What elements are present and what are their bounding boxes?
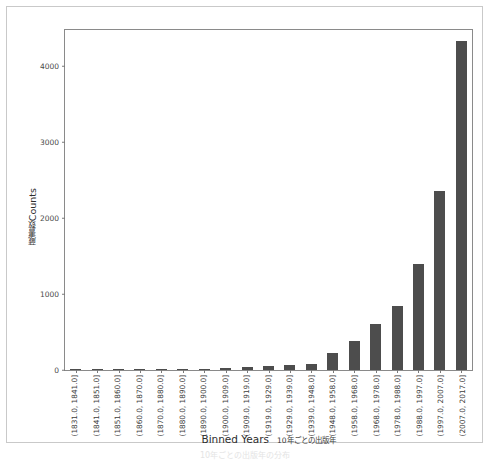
- x-axis-tick-label: (1997.0, 2007.0]: [437, 375, 444, 436]
- bar: [284, 365, 295, 370]
- bar: [113, 369, 124, 370]
- bar-slot: [429, 30, 450, 370]
- x-axis-tick-mark: [461, 370, 462, 373]
- bar-slot: [386, 30, 407, 370]
- x-axis-title-en: Binned Years: [201, 433, 269, 445]
- y-axis-tick-label: 1000: [40, 290, 65, 298]
- x-axis-tick-mark: [119, 370, 120, 373]
- bar-slot: [151, 30, 172, 370]
- bar-slot: [258, 30, 279, 370]
- bar: [456, 41, 467, 370]
- bar: [327, 353, 338, 370]
- x-axis-tick-label: (1968.0, 1978.0]: [373, 375, 380, 436]
- bar-slot: [279, 30, 300, 370]
- x-axis-tick-mark: [440, 370, 441, 373]
- y-axis-tick-label: 3000: [40, 138, 65, 146]
- y-axis-tick-label: 0: [54, 366, 65, 374]
- bar-slot: [451, 30, 472, 370]
- bar-series: [65, 30, 472, 370]
- bar-slot: [236, 30, 257, 370]
- x-axis-tick-mark: [97, 370, 98, 373]
- bar: [92, 369, 103, 370]
- bar-slot: [86, 30, 107, 370]
- y-axis-tick-label: 2000: [40, 214, 65, 222]
- x-axis-tick-mark: [376, 370, 377, 373]
- bar: [413, 264, 424, 370]
- y-axis-title: 蔵書数Counts: [24, 157, 40, 277]
- bar: [392, 306, 403, 370]
- bar-slot: [65, 30, 86, 370]
- bar: [177, 369, 188, 370]
- bar: [349, 341, 360, 370]
- bar-slot: [408, 30, 429, 370]
- x-axis-tick-mark: [247, 370, 248, 373]
- x-axis-tick-mark: [311, 370, 312, 373]
- bar-slot: [129, 30, 150, 370]
- bar-slot: [365, 30, 386, 370]
- x-axis-tick-label: (1870.0, 1880.0]: [157, 375, 164, 436]
- plot-area: 01000200030004000: [64, 29, 473, 371]
- x-axis-tick-mark: [161, 370, 162, 373]
- x-axis-tick-mark: [76, 370, 77, 373]
- bar-slot: [322, 30, 343, 370]
- x-axis-tick-mark: [354, 370, 355, 373]
- y-axis-title-jp: 蔵書数: [28, 222, 37, 246]
- x-axis-tick-mark: [290, 370, 291, 373]
- x-axis-tick-mark: [333, 370, 334, 373]
- x-axis-tick-label: (1958.0, 1968.0]: [351, 375, 358, 436]
- x-axis-tick-mark: [418, 370, 419, 373]
- x-axis-tick-label: (1939.0, 1948.0]: [308, 375, 315, 436]
- bar: [134, 369, 145, 370]
- figure-caption: 10年ごとの出版年の分布: [0, 449, 490, 462]
- bar: [434, 191, 445, 370]
- bar: [199, 369, 210, 370]
- bar-slot: [172, 30, 193, 370]
- bar-slot: [108, 30, 129, 370]
- y-axis-title-text: 蔵書数Counts: [27, 188, 38, 245]
- bar: [242, 367, 253, 370]
- y-axis-tick-label: 4000: [40, 62, 65, 70]
- x-axis-tick-label: (1880.0, 1890.0]: [179, 375, 186, 436]
- x-axis-tick-mark: [183, 370, 184, 373]
- x-axis-tick-label: (1919.0, 1929.0]: [265, 375, 272, 436]
- x-axis-tick-label: (1831.0, 1841.0]: [71, 375, 78, 436]
- x-axis-tick-label: (1841.0, 1851.0]: [93, 375, 100, 436]
- bar: [370, 324, 381, 370]
- x-axis-tick-label: (2007.0, 2017.0]: [459, 375, 466, 436]
- bar-slot: [215, 30, 236, 370]
- x-axis-tick-mark: [226, 370, 227, 373]
- x-axis-tick-mark: [397, 370, 398, 373]
- x-axis-tick-label: (1988.0, 1997.0]: [416, 375, 423, 436]
- bar: [306, 364, 317, 370]
- x-axis-tick-label: (1978.0, 1988.0]: [394, 375, 401, 436]
- x-axis-tick-label: (1860.0, 1870.0]: [136, 375, 143, 436]
- bar-slot: [301, 30, 322, 370]
- x-axis-title: Binned Years 10年ごとの出版年: [64, 433, 473, 445]
- x-axis-tick-label: (1909.0, 1919.0]: [243, 375, 250, 436]
- x-axis-tick-label: (1900.0, 1909.0]: [222, 375, 229, 436]
- bar: [156, 369, 167, 370]
- bar-slot: [343, 30, 364, 370]
- y-axis-title-en: Counts: [27, 188, 38, 221]
- x-axis-tick-label: (1929.0, 1939.0]: [286, 375, 293, 436]
- x-axis-tick-label: (1890.0, 1900.0]: [200, 375, 207, 436]
- x-axis-tick-mark: [269, 370, 270, 373]
- x-axis-tick-label: (1948.0, 1958.0]: [329, 375, 336, 436]
- bar-slot: [194, 30, 215, 370]
- figure-frame: 01000200030004000 蔵書数Counts (1831.0, 184…: [6, 6, 483, 443]
- bar: [70, 369, 81, 370]
- x-axis-title-jp: 10年ごとの出版年: [277, 434, 336, 445]
- bar: [220, 368, 231, 370]
- x-axis-tick-mark: [140, 370, 141, 373]
- x-axis-tick-mark: [204, 370, 205, 373]
- bar: [263, 366, 274, 370]
- x-axis-tick-label: (1851.0, 1860.0]: [114, 375, 121, 436]
